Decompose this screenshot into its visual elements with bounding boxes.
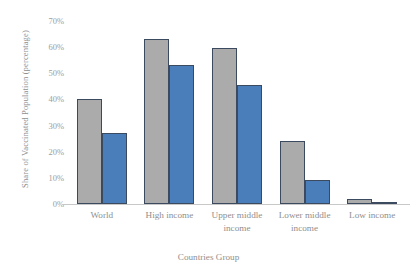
bar-group <box>271 21 339 204</box>
bar-group <box>136 21 204 204</box>
x-axis-category-label: Upper middle income <box>203 209 271 234</box>
bar-gray <box>280 141 305 204</box>
bar-group <box>203 21 271 204</box>
bar-gray <box>212 48 237 204</box>
x-axis-category-label: Lower middle income <box>271 209 339 234</box>
bar-blue <box>372 202 397 204</box>
bar-blue <box>237 85 262 204</box>
x-axis-title: Countries Group <box>0 252 417 262</box>
y-axis-tick-label: 30% <box>36 121 64 130</box>
y-axis-tick-label: 50% <box>36 69 64 78</box>
bar-blue <box>305 180 330 204</box>
bar-gray <box>77 99 102 204</box>
bar-groups <box>68 21 406 204</box>
x-axis-category-label: High income <box>136 209 204 234</box>
bar-group <box>68 21 136 204</box>
bar-blue <box>169 65 194 204</box>
y-axis-title: Share of Vaccinated Population (percenta… <box>20 9 30 209</box>
bar-gray <box>347 199 372 204</box>
x-axis-line <box>62 204 410 205</box>
bar-chart: Share of Vaccinated Population (percenta… <box>0 0 417 275</box>
y-axis-tick-label: 0% <box>36 200 64 209</box>
x-axis-category-label: World <box>68 209 136 234</box>
bar-group <box>338 21 406 204</box>
x-axis-category-label: Low income <box>338 209 406 234</box>
x-axis-category-labels: WorldHigh incomeUpper middle incomeLower… <box>68 209 406 234</box>
y-axis-tick-label: 70% <box>36 17 64 26</box>
bar-gray <box>144 39 169 204</box>
y-axis-tick-label: 40% <box>36 95 64 104</box>
y-axis-tick-label: 20% <box>36 147 64 156</box>
y-axis-tick-label: 60% <box>36 43 64 52</box>
bar-blue <box>102 133 127 204</box>
y-axis-tick-label: 10% <box>36 174 64 183</box>
y-axis-tick-labels: 70%60%50%40%30%20%10%0% <box>36 21 64 204</box>
